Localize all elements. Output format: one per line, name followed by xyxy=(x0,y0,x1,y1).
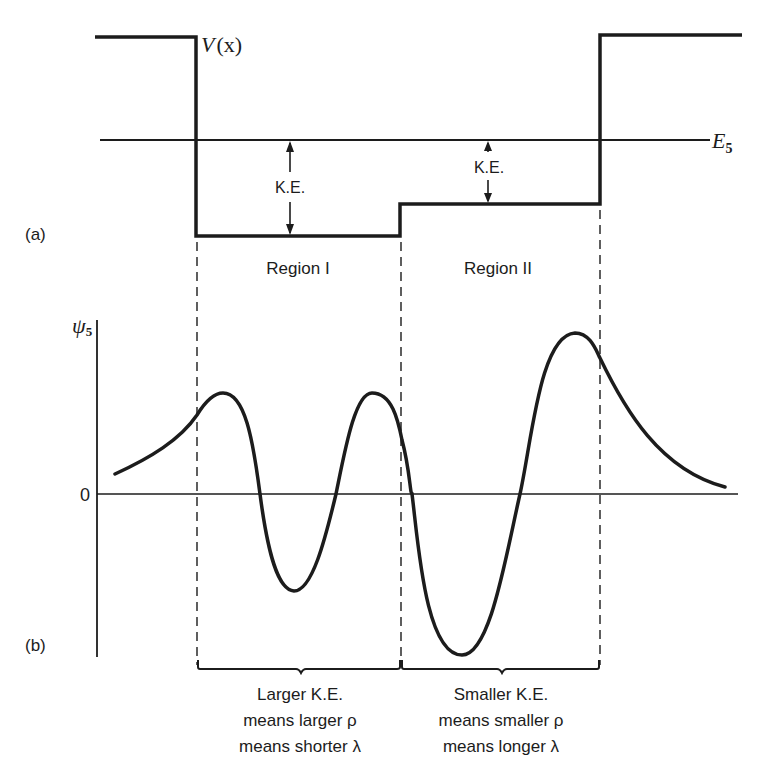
wavefunction-label: ψ5 xyxy=(72,313,93,339)
annotation-right-line-1: Smaller K.E. xyxy=(454,685,548,704)
potential-curve xyxy=(95,35,742,236)
brace-region-2 xyxy=(402,660,599,673)
region-braces xyxy=(198,660,599,673)
wavefunction-panel: ψ5 0 (b) xyxy=(25,313,738,657)
annotation-left-line-2: means larger ρ xyxy=(243,711,357,730)
panel-b-label: (b) xyxy=(25,636,46,655)
ke-label-region-2: K.E. xyxy=(474,159,504,176)
region-boundaries xyxy=(197,210,600,665)
potential-panel: K.E. K.E. V(x) E5 (a) Region I Region II xyxy=(25,32,742,278)
zero-label: 0 xyxy=(80,485,90,505)
annotation-left-line-1: Larger K.E. xyxy=(257,685,343,704)
annotation-left: Larger K.E. means larger ρ means shorter… xyxy=(239,685,361,756)
annotation-right: Smaller K.E. means smaller ρ means longe… xyxy=(439,685,564,756)
region-2-label: Region II xyxy=(464,259,532,278)
ke-label-region-1: K.E. xyxy=(275,179,305,196)
brace-region-1 xyxy=(198,660,400,673)
region-1-label: Region I xyxy=(266,259,329,278)
annotation-right-line-3: means longer λ xyxy=(443,737,560,756)
panel-a-label: (a) xyxy=(25,225,46,244)
diagram-canvas: K.E. K.E. V(x) E5 (a) Region I Region II xyxy=(0,0,760,766)
energy-label: E5 xyxy=(711,128,732,156)
annotation-right-line-2: means smaller ρ xyxy=(439,711,564,730)
potential-label: V(x) xyxy=(201,32,242,57)
annotation-left-line-3: means shorter λ xyxy=(239,737,361,756)
